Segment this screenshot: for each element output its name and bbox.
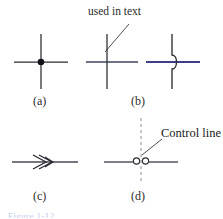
panel-b-hop-crossing xyxy=(146,34,200,89)
panel-d-contact-circle-left xyxy=(133,158,139,164)
panel-d-contact-circle-right xyxy=(142,158,148,164)
control-line-leader xyxy=(142,139,162,155)
caption-partial: Figure 1-12 xyxy=(8,211,55,218)
used-in-text-label: used in text xyxy=(88,6,141,18)
figure-container: used in text Control line (a) (b) (c) (d… xyxy=(0,0,223,219)
used-in-text-leader-line xyxy=(105,24,129,52)
panel-b-plain-cross xyxy=(86,24,138,89)
schematic-canvas xyxy=(0,0,223,219)
sublabel-c: (c) xyxy=(33,190,46,202)
sublabel-b: (b) xyxy=(131,95,145,107)
sublabel-a: (a) xyxy=(33,95,46,107)
panel-c-arrow-line xyxy=(12,155,78,169)
control-line-label: Control line xyxy=(161,127,221,140)
panel-a-junction-dot xyxy=(38,59,45,66)
panel-a-connected-junction xyxy=(14,34,68,89)
sublabel-d: (d) xyxy=(131,190,145,202)
